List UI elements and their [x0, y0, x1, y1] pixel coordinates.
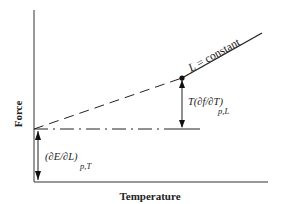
arrow-up-icon	[179, 80, 185, 88]
arrow-up-icon	[35, 131, 41, 140]
energetic-term-label: (∂E/∂L)	[45, 151, 78, 163]
entropic-arrow	[179, 80, 185, 128]
entropic-term-subscript: p,L	[217, 106, 229, 116]
arrow-down-icon	[35, 171, 41, 180]
energetic-term-subscript: p,T	[79, 161, 92, 171]
extrapolated-force-line	[34, 78, 182, 129]
energetic-arrow	[35, 131, 41, 180]
line-label: L = constant	[185, 35, 242, 74]
force-temperature-diagram: L = constant T(∂f/∂T) p,L (∂E/∂L) p,T Fo…	[0, 0, 285, 204]
x-axis-title: Temperature	[119, 190, 180, 202]
y-axis-title: Force	[12, 101, 24, 128]
arrow-down-icon	[179, 120, 185, 128]
measurement-point	[179, 75, 184, 80]
